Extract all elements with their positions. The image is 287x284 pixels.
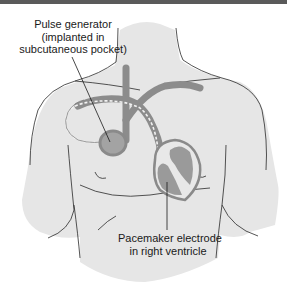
heart xyxy=(154,140,200,200)
label-line: in right ventricle xyxy=(118,245,218,258)
electrode-label: Pacemaker electrode in right ventricle xyxy=(118,232,218,257)
label-line: Pulse generator xyxy=(18,18,128,31)
pulse-generator-device xyxy=(100,131,126,155)
pulse-generator-label: Pulse generator (implanted in subcutaneo… xyxy=(18,18,128,56)
label-line: subcutaneous pocket) xyxy=(18,43,128,56)
label-line: Pacemaker electrode xyxy=(118,232,218,245)
label-line: (implanted in xyxy=(18,31,128,44)
